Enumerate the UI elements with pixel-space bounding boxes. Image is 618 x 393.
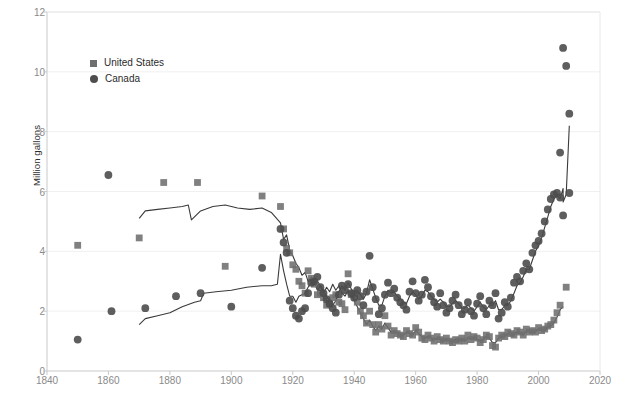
data-point-canada [446,304,454,312]
data-point-canada [314,273,322,281]
data-point-united-states [339,300,346,307]
data-point-canada [559,212,567,220]
chart-legend: United States Canada [90,55,164,87]
data-point-canada [369,283,377,291]
data-point-united-states [557,302,564,309]
data-point-canada [436,289,444,297]
data-point-canada [283,249,291,257]
data-point-united-states [360,312,367,319]
data-point-canada [409,277,417,285]
data-point-canada [424,283,432,291]
data-point-canada [492,289,500,297]
data-point-canada [556,194,564,202]
data-point-canada [344,280,352,288]
square-marker-icon [90,60,97,67]
data-point-united-states [372,329,379,336]
data-point-canada [390,285,398,293]
data-point-united-states [486,333,493,340]
data-point-canada [538,230,546,238]
data-point-canada [108,307,116,315]
data-point-united-states [366,308,373,315]
data-point-canada [301,304,309,312]
data-point-united-states [342,306,349,313]
data-point-united-states [305,267,312,274]
data-point-united-states [415,329,422,336]
circle-marker-icon [90,75,98,83]
data-point-canada [258,264,266,272]
data-point-canada [464,298,472,306]
data-point-united-states [74,242,81,249]
data-point-canada [277,225,285,233]
chart-container: Million gallons 024681012 18401860188019… [0,0,618,393]
data-point-united-states [369,321,376,328]
data-point-canada [565,189,573,197]
legend-item-canada: Canada [90,71,164,87]
legend-label-canada: Canada [105,71,140,87]
legend-item-united-states: United States [90,55,164,71]
data-point-canada [74,336,82,344]
data-point-canada [304,289,312,297]
data-point-united-states [563,284,570,291]
data-point-canada [562,62,570,70]
data-point-canada [507,294,515,302]
data-point-canada [498,309,506,317]
data-point-canada [227,303,235,311]
data-point-united-states [136,235,143,242]
data-point-united-states [194,179,201,186]
data-point-canada [360,301,368,309]
data-point-canada [559,44,567,52]
data-point-united-states [160,179,167,186]
data-point-canada [403,306,411,314]
data-point-united-states [363,320,370,327]
data-point-canada [418,291,426,299]
data-point-united-states [409,332,416,339]
legend-label-united-states: United States [104,55,164,71]
data-point-canada [384,279,392,287]
data-point-canada [504,303,512,311]
data-point-canada [516,277,524,285]
data-point-canada [565,110,573,118]
data-point-canada [529,249,537,257]
data-point-canada [421,276,429,284]
data-point-canada [476,292,484,300]
data-point-canada [332,309,340,317]
data-point-united-states [461,338,468,345]
data-point-canada [544,206,552,214]
data-point-canada [482,310,490,318]
data-point-canada [470,312,478,320]
data-point-canada [105,171,113,179]
data-point-canada [295,315,303,323]
data-point-canada [289,304,297,312]
data-point-united-states [345,270,352,277]
data-point-united-states [299,282,306,289]
data-point-canada [280,239,288,247]
data-point-canada [378,304,386,312]
data-point-canada [197,289,205,297]
data-point-canada [535,237,543,245]
data-point-united-states [277,203,284,210]
data-point-canada [489,301,497,309]
data-point-united-states [259,193,266,200]
data-point-united-states [492,344,499,351]
data-point-canada [366,252,374,260]
data-point-united-states [222,263,229,270]
data-point-united-states [293,266,300,273]
data-point-canada [172,292,180,300]
data-point-united-states [379,326,386,333]
data-point-canada [556,149,564,157]
data-point-united-states [400,333,407,340]
data-point-united-states [554,309,561,316]
data-point-united-states [385,323,392,330]
data-point-canada [452,291,460,299]
data-point-canada [541,218,549,226]
data-point-united-states [551,317,558,324]
data-point-canada [525,265,533,273]
data-point-united-states [520,332,527,339]
data-point-canada [141,304,149,312]
data-point-canada [286,297,294,305]
data-point-canada [372,295,380,303]
